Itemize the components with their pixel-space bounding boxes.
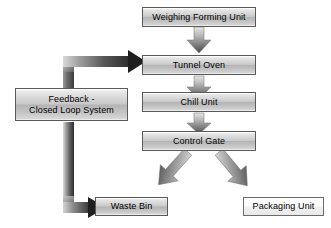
control-gate-to-waste-bin-arrow	[148, 150, 200, 202]
control-gate-to-packaging-unit-arrow	[205, 150, 265, 202]
node-control-gate-label: Control Gate	[173, 136, 225, 147]
node-tunnel-oven-label: Tunnel Oven	[173, 60, 225, 71]
flowchart-canvas: Weighing Forming Unit Tunnel Oven Chill …	[0, 0, 331, 228]
node-weighing-forming-unit[interactable]: Weighing Forming Unit	[142, 7, 256, 27]
node-waste-bin-label: Waste Bin	[111, 201, 153, 212]
node-tunnel-oven[interactable]: Tunnel Oven	[142, 55, 256, 75]
node-chill-unit[interactable]: Chill Unit	[142, 92, 256, 112]
node-weighing-forming-unit-label: Weighing Forming Unit	[152, 12, 245, 23]
node-chill-unit-label: Chill Unit	[180, 97, 217, 108]
node-control-gate[interactable]: Control Gate	[142, 131, 256, 151]
node-packaging-unit-label: Packaging Unit	[253, 201, 315, 212]
node-feedback-closed-loop-system-label: Feedback - Closed Loop System	[29, 94, 114, 115]
feedback-to-tunnel-oven-arrow	[60, 49, 148, 73]
node-feedback-closed-loop-system[interactable]: Feedback - Closed Loop System	[15, 88, 128, 121]
weighing-to-tunnel-oven-arrow	[186, 27, 212, 54]
node-packaging-unit[interactable]: Packaging Unit	[243, 197, 324, 216]
node-waste-bin[interactable]: Waste Bin	[95, 197, 168, 216]
